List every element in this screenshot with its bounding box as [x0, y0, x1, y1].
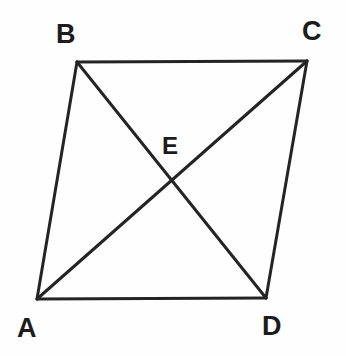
vertex-label-b: B	[56, 21, 76, 48]
geometry-figure: A B C D E	[0, 0, 346, 356]
vertex-label-a: A	[17, 315, 37, 342]
edge-ab	[37, 62, 77, 299]
edge-cd	[266, 61, 307, 298]
diagonal-bd	[77, 62, 266, 298]
vertex-label-c: C	[302, 18, 322, 45]
edge-bc	[77, 61, 307, 62]
vertex-label-e-intersection: E	[162, 134, 178, 158]
vertex-label-d: D	[262, 313, 282, 340]
quadrilateral-diagram	[0, 0, 346, 356]
edge-da	[37, 298, 266, 299]
